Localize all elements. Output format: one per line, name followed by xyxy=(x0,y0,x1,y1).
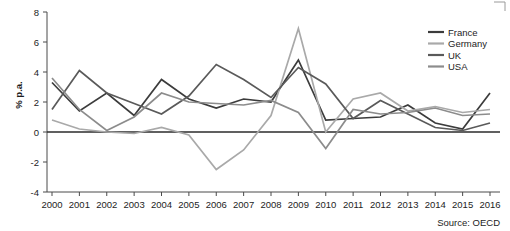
x-tick-label: 2000 xyxy=(41,199,62,210)
legend-label-uk: UK xyxy=(448,50,462,61)
x-tick-label: 2006 xyxy=(206,199,227,210)
y-tick-label: 0 xyxy=(34,127,39,138)
x-axis-ticks: 2000200120022003200420052006200720082009… xyxy=(41,192,500,210)
y-axis-title: % p.a. xyxy=(13,81,24,108)
x-tick-label: 2009 xyxy=(288,199,309,210)
legend-label-germany: Germany xyxy=(448,38,487,49)
corner-mark-icon xyxy=(494,2,505,11)
x-tick-label: 2013 xyxy=(397,199,418,210)
x-tick-label: 2002 xyxy=(96,199,117,210)
x-tick-label: 2003 xyxy=(124,199,145,210)
chart-container: 86420-2-4 200020012002200320042005200620… xyxy=(0,0,510,231)
data-series-group xyxy=(52,29,490,170)
x-tick-label: 2011 xyxy=(343,199,363,210)
y-axis-ticks: 86420-2-4 xyxy=(31,7,47,198)
y-tick-label: -4 xyxy=(31,187,39,198)
x-tick-label: 2015 xyxy=(452,199,473,210)
x-tick-label: 2007 xyxy=(233,199,254,210)
x-tick-label: 2016 xyxy=(479,199,500,210)
series-line-france xyxy=(52,60,490,129)
y-tick-label: 4 xyxy=(34,67,39,78)
x-tick-label: 2010 xyxy=(315,199,336,210)
x-tick-label: 2005 xyxy=(178,199,199,210)
y-tick-label: 2 xyxy=(34,97,39,108)
legend-label-france: France xyxy=(448,27,478,38)
y-tick-label: -2 xyxy=(31,157,39,168)
x-tick-label: 2008 xyxy=(260,199,281,210)
y-tick-label: 6 xyxy=(34,37,39,48)
y-tick-label: 8 xyxy=(34,7,39,18)
series-line-germany xyxy=(52,29,490,170)
source-label: Source: OECD xyxy=(437,217,500,228)
chart-legend: FranceGermanyUKUSA xyxy=(428,27,487,73)
series-line-uk xyxy=(52,65,490,131)
legend-label-usa: USA xyxy=(448,61,468,72)
x-tick-label: 2012 xyxy=(370,199,391,210)
x-tick-label: 2001 xyxy=(69,199,90,210)
line-chart: 86420-2-4 200020012002200320042005200620… xyxy=(0,0,510,231)
x-tick-label: 2014 xyxy=(425,199,446,210)
x-tick-label: 2004 xyxy=(151,199,172,210)
